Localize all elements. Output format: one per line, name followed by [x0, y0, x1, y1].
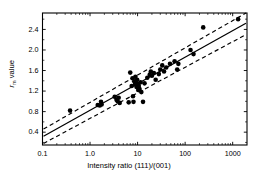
data-point: [201, 25, 206, 30]
y-tick-label: 1.2: [19, 87, 39, 94]
regression-line: [44, 23, 246, 136]
x-tick-label: 100: [170, 150, 200, 157]
data-point: [191, 52, 196, 57]
data-point: [116, 95, 121, 100]
data-point: [162, 69, 167, 74]
data-point: [157, 72, 162, 77]
upper-band: [44, 13, 246, 129]
x-axis-label: Intensity ratio (111)/(001): [0, 162, 258, 170]
y-tick-label: 0.8: [19, 108, 39, 115]
data-point: [153, 77, 158, 82]
x-tick-label: 1.0: [75, 150, 105, 157]
y-tick-label: 2.0: [19, 46, 39, 53]
data-point: [160, 63, 165, 68]
data-point: [172, 59, 177, 64]
data-point: [168, 62, 173, 67]
y-tick-label: 2.4: [19, 26, 39, 33]
y-axis-label-rest: value: [7, 60, 16, 80]
fit-line: [44, 23, 246, 136]
data-point: [176, 62, 181, 67]
data-point: [117, 101, 122, 106]
data-point: [131, 94, 136, 99]
data-point: [142, 81, 147, 86]
x-tick-label: 0.1: [28, 150, 58, 157]
y-axis-label-wrap: rm value: [4, 0, 18, 160]
data-point: [68, 108, 73, 113]
data-point: [128, 70, 133, 75]
y-axis-label-symbol: r: [7, 85, 16, 88]
data-point: [152, 71, 157, 76]
plot-frame: [43, 13, 248, 145]
data-point: [138, 80, 143, 85]
tick-marks: [43, 13, 248, 145]
y-axis-label-subscript: m: [11, 80, 17, 85]
axes-frame: [43, 13, 248, 145]
data-point: [188, 48, 193, 53]
data-point: [141, 100, 146, 105]
data-point: [99, 102, 104, 107]
y-axis-label: rm value: [8, 34, 16, 114]
data-point: [164, 65, 169, 70]
x-tick-label: 1000: [218, 150, 248, 157]
data-point: [175, 67, 180, 72]
y-tick-label: 1.6: [19, 67, 39, 74]
y-tick-label: 0.4: [19, 128, 39, 135]
data-point: [126, 100, 131, 105]
confidence-bands: [44, 13, 246, 143]
figure-container: 0.40.81.21.62.02.4 0.11.0101001000 Inten…: [0, 0, 258, 180]
lower-band: [44, 35, 246, 144]
data-point: [131, 100, 136, 105]
data-point: [236, 17, 241, 22]
x-tick-label: 10: [123, 150, 153, 157]
data-point: [139, 90, 144, 95]
